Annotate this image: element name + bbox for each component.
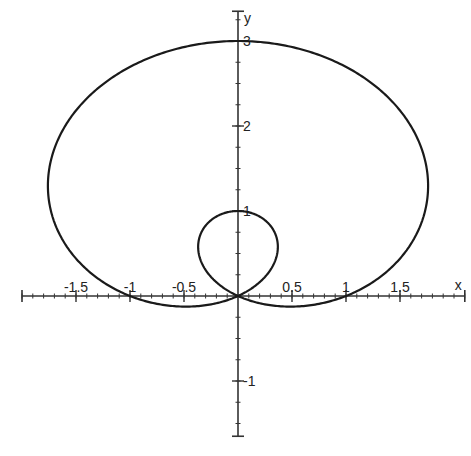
x-tick-label: -0.5 <box>172 279 196 295</box>
polar-plot: -1.5-1-0.50.511.5-1123 x y <box>0 0 471 456</box>
x-tick-label: -1.5 <box>64 279 88 295</box>
y-tick-label: -1 <box>243 373 256 389</box>
x-tick-label: 1.5 <box>390 279 410 295</box>
y-tick-label: 2 <box>243 118 251 134</box>
x-axis-label: x <box>455 277 462 293</box>
tick-marks <box>22 20 465 424</box>
x-tick-label: 0.5 <box>282 279 302 295</box>
x-tick-label: 1 <box>342 279 350 295</box>
x-tick-label: -1 <box>124 279 137 295</box>
y-axis-label: y <box>244 10 251 26</box>
